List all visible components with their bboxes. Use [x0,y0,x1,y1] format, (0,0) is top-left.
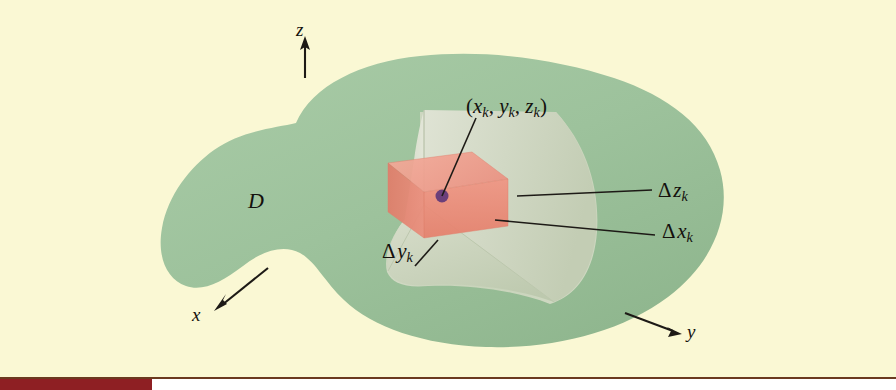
label-region-d: D [248,190,264,212]
label-sample-point: (xk, yk, zk) [466,96,547,119]
label-delta-z: Δ zk [658,180,688,203]
bottom-color-tab [0,379,152,390]
figure-page: (xk, yk, zk) Δ zk Δ xk Δ yk D z x y [0,0,896,390]
diagram-canvas [0,0,896,390]
label-axis-y: y [687,322,695,341]
label-axis-x: x [192,305,200,324]
label-axis-z: z [296,20,303,39]
label-delta-x: Δ xk [662,221,693,244]
label-delta-y: Δ yk [382,241,413,264]
